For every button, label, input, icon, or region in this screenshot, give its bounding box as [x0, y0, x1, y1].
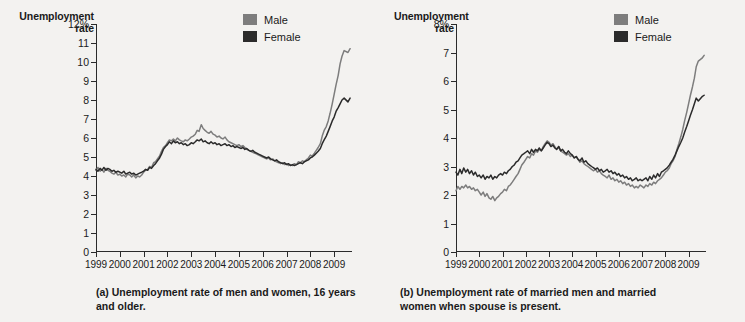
x-axis-tick-label: 2002: [156, 260, 178, 270]
x-axis-tick-label: 2004: [204, 260, 226, 270]
y-axis-tick-label: 8: [83, 95, 89, 106]
chart-panel-a: Unemployment rate Male Female 0123456789…: [0, 0, 392, 322]
x-axis-tick: [596, 252, 597, 257]
x-axis-tick-label: 2008: [654, 260, 676, 270]
x-axis-tick: [239, 252, 240, 257]
x-axis-tick: [456, 252, 457, 257]
y-axis-tick-label: 8%: [434, 19, 449, 30]
x-axis-tick-label: 2004: [561, 260, 583, 270]
y-axis-title-line1: Unemployment: [394, 10, 469, 22]
y-axis-tick-label: 12%: [68, 19, 89, 30]
x-axis-tick: [310, 252, 311, 257]
x-axis-tick: [642, 252, 643, 257]
x-axis-tick-label: 2008: [299, 260, 321, 270]
x-axis-tick-label: 2001: [491, 260, 513, 270]
x-axis-tick: [689, 252, 690, 257]
x-axis-tick-label: 2000: [109, 260, 131, 270]
x-axis-tick-label: 2003: [180, 260, 202, 270]
x-axis-tick: [215, 252, 216, 257]
x-axis-tick-label: 2002: [515, 260, 537, 270]
y-axis-tick-label: 9: [83, 76, 89, 87]
y-axis-tick-label: 5: [83, 152, 89, 163]
caption-b: (b) Unemployment rate of married men and…: [400, 285, 690, 313]
x-axis-tick: [263, 252, 264, 257]
y-axis-tick-label: 4: [83, 171, 89, 182]
y-axis-tick-label: 2: [443, 190, 449, 201]
chart-panel-b: Unemployment rate Male Female 012345678%…: [392, 0, 745, 322]
x-axis-tick: [120, 252, 121, 257]
x-axis-tick: [526, 252, 527, 257]
series-line-female: [96, 98, 350, 175]
x-axis-tick-label: 2000: [468, 260, 490, 270]
y-axis-tick-label: 0: [83, 247, 89, 258]
x-axis-tick-label: 2005: [584, 260, 606, 270]
x-axis-tick: [503, 252, 504, 257]
y-axis-tick-label: 7: [83, 114, 89, 125]
y-axis-tick-label: 10: [77, 57, 89, 68]
x-axis-tick-label: 2009: [677, 260, 699, 270]
y-axis-tick-label: 6: [83, 133, 89, 144]
series-line-female: [456, 95, 704, 181]
x-axis-tick-label: 1999: [85, 260, 107, 270]
x-axis-tick: [96, 252, 97, 257]
x-axis-tick: [665, 252, 666, 257]
x-axis-tick: [549, 252, 550, 257]
x-axis-tick-label: 2006: [608, 260, 630, 270]
y-axis-tick-label: 2: [83, 209, 89, 220]
x-axis-tick: [619, 252, 620, 257]
x-axis-tick-label: 2007: [275, 260, 297, 270]
x-axis-tick-label: 2001: [133, 260, 155, 270]
series-layer: [96, 24, 352, 252]
x-axis-tick-label: 2009: [323, 260, 345, 270]
x-axis-tick: [167, 252, 168, 257]
x-axis-tick: [191, 252, 192, 257]
plot-area-b: 012345678%199920002001200220032004200520…: [456, 24, 706, 252]
caption-a: (a) Unemployment rate of men and women, …: [96, 285, 376, 313]
x-axis-tick: [334, 252, 335, 257]
x-axis-tick-label: 2003: [538, 260, 560, 270]
x-axis-tick: [479, 252, 480, 257]
y-axis-tick-label: 0: [443, 247, 449, 258]
y-axis-tick-label: 3: [443, 162, 449, 173]
series-line-male: [96, 49, 350, 178]
x-axis-tick-label: 2005: [228, 260, 250, 270]
x-axis-tick: [144, 252, 145, 257]
x-axis-tick-label: 1999: [445, 260, 467, 270]
y-axis-tick-label: 4: [443, 133, 449, 144]
x-axis-tick-label: 2007: [631, 260, 653, 270]
series-layer: [456, 24, 706, 252]
y-axis-tick-label: 11: [78, 38, 89, 49]
y-axis-tick-label: 7: [443, 48, 449, 59]
y-axis-tick-label: 3: [83, 190, 89, 201]
x-axis-tick: [572, 252, 573, 257]
y-axis-tick-label: 1: [443, 219, 449, 230]
figure-container: Unemployment rate Male Female 0123456789…: [0, 0, 745, 322]
x-axis-tick: [287, 252, 288, 257]
y-axis-tick-label: 1: [83, 228, 89, 239]
plot-area-a: 0123456789101112%19992000200120022003200…: [96, 24, 352, 252]
x-axis-tick-label: 2006: [252, 260, 274, 270]
y-axis-tick-label: 5: [443, 105, 449, 116]
y-axis-tick-label: 6: [443, 76, 449, 87]
